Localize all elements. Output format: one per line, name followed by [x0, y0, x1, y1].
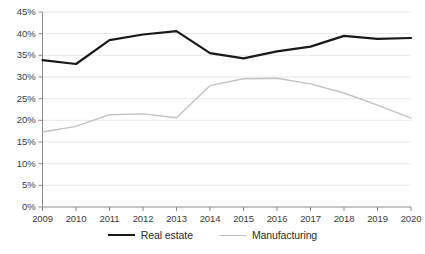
legend-line-icon-real-estate — [108, 234, 135, 236]
y-axis-tick-label: 25% — [6, 93, 36, 104]
y-axis-tick-label: 45% — [6, 6, 36, 17]
legend-item-real-estate[interactable]: Real estate — [108, 229, 193, 241]
y-axis-tick-label: 5% — [6, 179, 36, 190]
x-axis-tick-label: 2012 — [125, 213, 161, 224]
legend-line-icon-manufacturing — [219, 235, 246, 236]
x-axis-tick-label: 2015 — [226, 213, 262, 224]
legend-label-manufacturing: Manufacturing — [252, 229, 317, 241]
x-axis-tick-label: 2013 — [159, 213, 195, 224]
line-chart: 0%5%10%15%20%25%30%35%40%45% 20092010201… — [0, 0, 425, 254]
gridlines — [43, 12, 412, 185]
y-axis-ticks — [39, 12, 43, 207]
x-axis-tick-label: 2018 — [326, 213, 362, 224]
x-axis-tick-label: 2017 — [293, 213, 329, 224]
chart-legend: Real estate Manufacturing — [0, 229, 425, 241]
y-axis-tick-label: 20% — [6, 114, 36, 125]
y-axis-tick-label: 40% — [6, 28, 36, 39]
y-axis-tick-label: 30% — [6, 71, 36, 82]
y-axis-tick-label: 35% — [6, 49, 36, 60]
legend-item-manufacturing[interactable]: Manufacturing — [219, 229, 317, 241]
x-axis-tick-label: 2014 — [192, 213, 228, 224]
y-axis-tick-label: 0% — [6, 201, 36, 212]
x-axis-tick-label: 2016 — [259, 213, 295, 224]
x-axis-ticks — [43, 207, 412, 211]
series-line-manufacturing — [43, 78, 412, 132]
legend-label-real-estate: Real estate — [141, 229, 193, 241]
x-axis-tick-label: 2020 — [393, 213, 425, 224]
y-axis-tick-label: 15% — [6, 136, 36, 147]
x-axis-tick-label: 2010 — [58, 213, 94, 224]
data-series-group — [43, 31, 412, 132]
y-axis-tick-label: 10% — [6, 158, 36, 169]
series-line-real-estate — [43, 31, 412, 64]
x-axis-tick-label: 2011 — [92, 213, 128, 224]
x-axis-tick-label: 2009 — [25, 213, 61, 224]
x-axis-tick-label: 2019 — [360, 213, 396, 224]
